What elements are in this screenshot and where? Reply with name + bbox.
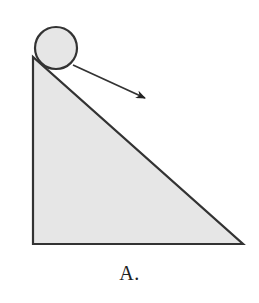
arrow-down-slope-icon bbox=[73, 65, 145, 98]
incline-diagram bbox=[0, 0, 259, 303]
inclined-plane-triangle bbox=[33, 57, 243, 244]
ball-circle bbox=[35, 27, 77, 69]
figure-label: A. bbox=[0, 262, 259, 285]
diagram-canvas: A. bbox=[0, 0, 259, 303]
